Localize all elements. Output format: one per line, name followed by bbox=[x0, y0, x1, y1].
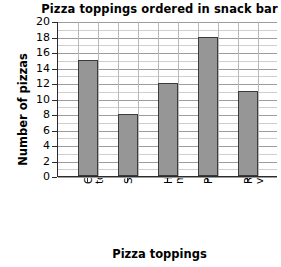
bar-chart: Pizza toppings ordered in snack bar Numb… bbox=[0, 0, 281, 267]
y-axis-tick-label: 4 bbox=[24, 140, 50, 151]
y-axis-tick-label: 20 bbox=[24, 16, 50, 27]
y-axis-tick-label: 10 bbox=[24, 94, 50, 105]
bars-group bbox=[58, 22, 277, 176]
bar bbox=[158, 83, 178, 176]
bar bbox=[238, 91, 258, 176]
y-axis-tick-label: 8 bbox=[24, 109, 50, 120]
y-axis-tick-label: 0 bbox=[24, 171, 50, 182]
y-axis-tick-label: 6 bbox=[24, 125, 50, 136]
y-axis-tick-label: 16 bbox=[24, 47, 50, 58]
y-axis-tick bbox=[52, 177, 57, 178]
y-axis-tick-label: 14 bbox=[24, 63, 50, 74]
plot-area bbox=[57, 22, 277, 177]
gridline-horizontal bbox=[58, 177, 277, 178]
y-axis-tick-label: 18 bbox=[24, 32, 50, 43]
bar bbox=[78, 60, 98, 176]
bar bbox=[198, 37, 218, 177]
chart-title: Pizza toppings ordered in snack bar bbox=[38, 2, 281, 16]
y-axis-tick-label: 2 bbox=[24, 156, 50, 167]
bar bbox=[118, 114, 138, 176]
x-axis-title: Pizza toppings bbox=[38, 247, 281, 261]
y-axis-tick-label: 12 bbox=[24, 78, 50, 89]
